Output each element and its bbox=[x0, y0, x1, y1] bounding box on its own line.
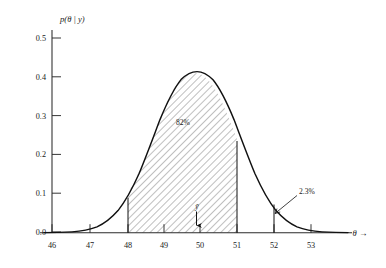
chart-canvas: 0.5 0.4 0.3 0.2 0.1 0.0 p(θ | y) 46 47 4… bbox=[0, 0, 386, 268]
x-tick-label-52: 52 bbox=[270, 241, 278, 250]
upper-tail-label: 2.3% bbox=[299, 187, 315, 196]
x-tick-label-53: 53 bbox=[307, 241, 315, 250]
x-tick-label-48: 48 bbox=[124, 241, 132, 250]
y-tick-label-3: 0.2 bbox=[36, 150, 46, 159]
x-tick-label-46: 46 bbox=[48, 241, 56, 250]
x-tick-label-50: 50 bbox=[196, 241, 204, 250]
y-axis-ticks bbox=[52, 38, 61, 232]
y-tick-label-1: 0.4 bbox=[36, 73, 46, 82]
x-tick-label-51: 51 bbox=[233, 241, 241, 250]
ybar-label: ȳ bbox=[194, 202, 199, 211]
x-tick-label-49: 49 bbox=[160, 241, 168, 250]
upper-tail-leader-line bbox=[275, 196, 297, 214]
y-axis-title: p(θ | y) bbox=[59, 14, 85, 24]
y-tick-label-4: 0.1 bbox=[36, 189, 46, 198]
y-tick-label-0: 0.5 bbox=[36, 34, 46, 43]
x-axis-title: θ → bbox=[353, 228, 368, 238]
y-tick-label-2: 0.3 bbox=[36, 112, 46, 121]
shaded-region-central bbox=[52, 73, 331, 233]
x-tick-label-47: 47 bbox=[86, 241, 94, 250]
central-mass-label: 82% bbox=[176, 118, 191, 127]
posterior-density-plot: 0.5 0.4 0.3 0.2 0.1 0.0 p(θ | y) 46 47 4… bbox=[0, 0, 386, 268]
